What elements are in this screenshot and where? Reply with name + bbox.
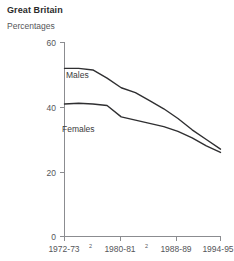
y-tick-label-60: 60 (47, 38, 57, 48)
x-tick-label-2-superscript: 2 (145, 243, 148, 249)
series-label-females: Females (62, 124, 95, 134)
x-tick-label-2: 1980-81 (104, 244, 135, 254)
series-label-males: Males (66, 70, 89, 80)
y-tick-label-40: 40 (47, 103, 57, 113)
line-chart-plot: 60 40 20 0 1972-73 2 1980-81 2 1988-89 1… (0, 0, 234, 261)
y-tick-label-20: 20 (47, 168, 57, 178)
x-tick-label-4: 1994-95 (202, 244, 233, 254)
x-tick-label-3: 1988-89 (160, 244, 191, 254)
y-tick-label-0: 0 (51, 232, 56, 242)
x-tick-label-1: 1972-73 (48, 244, 79, 254)
chart-card: Great Britain Percentages 60 40 20 0 197… (0, 0, 234, 261)
x-tick-label-1-superscript: 2 (89, 243, 92, 249)
series-line-males (65, 68, 221, 149)
